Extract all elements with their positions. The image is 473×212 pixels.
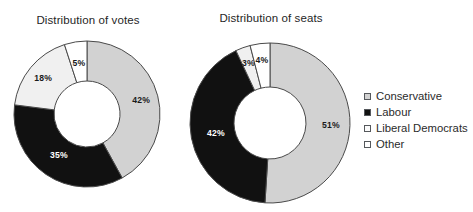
figure-canvas: Distribution of votes Distribution of se… [0, 0, 473, 212]
legend-label-liberal-democrats: Liberal Democrats [376, 120, 468, 136]
swatch-other [364, 141, 371, 148]
chart-title-seats: Distribution of seats [196, 12, 346, 24]
legend-item-liberal-democrats: Liberal Democrats [364, 120, 473, 136]
legend-item-conservative: Conservative [364, 88, 473, 104]
chart-title-votes: Distribution of votes [12, 14, 164, 26]
slice-data-label: 3% [242, 58, 255, 68]
swatch-conservative [364, 93, 371, 100]
slice-data-label: 51% [322, 120, 340, 130]
legend-item-labour: Labour [364, 104, 473, 120]
swatch-labour [364, 109, 371, 116]
donut-chart-seats: 51%42%3%4% [188, 41, 352, 205]
legend-label-conservative: Conservative [376, 88, 442, 104]
slice-data-label: 4% [256, 55, 269, 65]
donut-votes-slices [14, 41, 160, 187]
slice-data-label: 42% [207, 128, 225, 138]
legend-label-other: Other [376, 136, 404, 152]
swatch-liberal-democrats [364, 125, 371, 132]
donut-chart-votes: 42%35%18%5% [12, 38, 162, 190]
legend-label-labour: Labour [376, 104, 411, 120]
slice-data-label: 42% [132, 95, 150, 105]
legend-item-other: Other [364, 136, 473, 152]
slice-data-label: 5% [72, 58, 85, 68]
slice-data-label: 18% [34, 73, 52, 83]
chart-legend: Conservative Labour Liberal Democrats Ot… [364, 88, 473, 152]
slice-data-label: 35% [50, 150, 68, 160]
